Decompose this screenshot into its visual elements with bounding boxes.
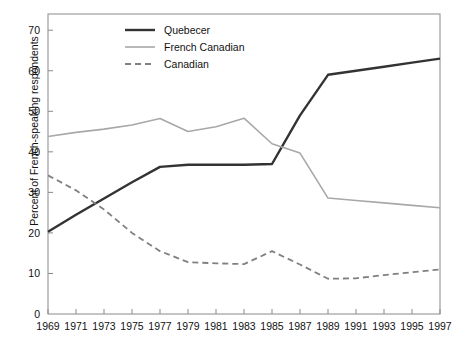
- x-tick-label: 1975: [120, 320, 144, 332]
- x-tick-label: 1973: [92, 320, 116, 332]
- x-tick-label: 1991: [344, 320, 368, 332]
- x-tick-label: 1979: [176, 320, 200, 332]
- x-tick-label: 1997: [428, 320, 452, 332]
- y-tick-label: 10: [28, 267, 40, 279]
- x-tick-label: 1985: [260, 320, 284, 332]
- x-tick-label: 1971: [64, 320, 88, 332]
- x-tick-label: 1987: [288, 320, 312, 332]
- x-tick-label: 1977: [148, 320, 172, 332]
- y-tick-label: 40: [28, 146, 40, 158]
- chart-canvas: 0102030405060701969197119731975197719791…: [0, 0, 461, 339]
- x-tick-label: 1995: [400, 320, 424, 332]
- series-layer: [48, 59, 440, 279]
- series-line-canadian: [48, 175, 440, 278]
- x-tick-label: 1983: [232, 320, 256, 332]
- legend-layer: QuebecerFrench CanadianCanadian: [125, 24, 245, 70]
- x-tick-label: 1969: [36, 320, 60, 332]
- y-tick-label: 0: [34, 308, 40, 320]
- y-tick-label: 30: [28, 186, 40, 198]
- x-tick-label: 1989: [316, 320, 340, 332]
- y-tick-label: 20: [28, 227, 40, 239]
- series-line-french-canadian: [48, 118, 440, 208]
- x-tick-label: 1993: [372, 320, 396, 332]
- legend-label-canadian: Canadian: [164, 58, 209, 70]
- x-tick-label: 1981: [204, 320, 228, 332]
- line-chart: Percent of French-speaking respondents 0…: [0, 0, 461, 339]
- y-tick-label: 70: [28, 24, 40, 36]
- y-tick-label: 50: [28, 105, 40, 117]
- series-line-quebecer: [48, 59, 440, 232]
- axis-layer: 0102030405060701969197119731975197719791…: [28, 14, 452, 332]
- y-tick-label: 60: [28, 65, 40, 77]
- legend-label-french-canadian: French Canadian: [164, 41, 245, 53]
- legend-label-quebecer: Quebecer: [164, 24, 211, 36]
